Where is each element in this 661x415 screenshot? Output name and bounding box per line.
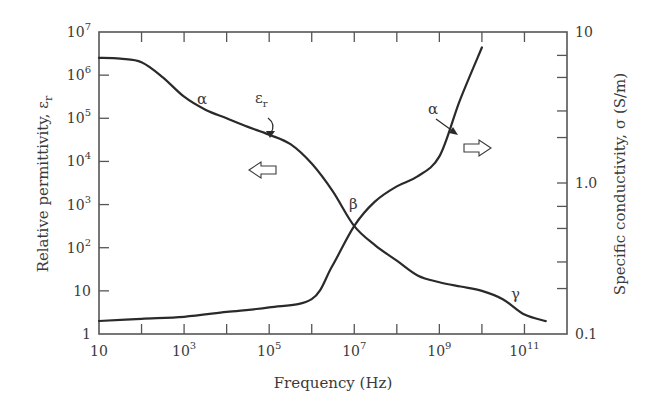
x-axis-title: Frequency (Hz)	[274, 374, 393, 392]
y-tick-label-left: 107	[67, 21, 91, 40]
alpha-pointer-arrow-icon	[436, 119, 458, 135]
y-tick-label-base: 10	[67, 197, 85, 213]
y-tick-label-left: 102	[67, 237, 91, 256]
x-tick-label-base: 10	[427, 343, 445, 359]
y-tick-label-exponent: 3	[85, 194, 91, 205]
x-tick-label: 105	[257, 340, 281, 359]
beta-label: β	[349, 195, 358, 213]
x-tick-label-base: 10	[509, 343, 527, 359]
epsilon-r-label: εr	[255, 89, 268, 109]
data-curves	[99, 48, 546, 322]
y-tick-label-left: 10	[73, 283, 91, 299]
y-tick-label-exponent: 5	[85, 107, 91, 118]
y-tick-label-exponent: 7	[85, 21, 91, 32]
y-tick-label-exponent: 2	[85, 237, 91, 248]
x-tick-label: 10	[90, 343, 108, 359]
y-tick-label-left: 1	[82, 326, 91, 342]
x-tick-label-base: 10	[342, 343, 360, 359]
x-tick-label: 109	[427, 340, 451, 359]
gamma-label: γ	[511, 285, 520, 303]
permittivity-conductivity-chart: 1010310510710910111101021031041051061070…	[0, 0, 661, 415]
y-tick-label-right: 1.0	[575, 175, 597, 191]
y-tick-label-base: 10	[73, 283, 91, 299]
x-tick-label-exponent: 7	[360, 340, 366, 351]
x-tick-label-base: 10	[172, 343, 190, 359]
y-tick-label-right: 0.1	[575, 326, 597, 342]
x-tick-label: 103	[172, 340, 196, 359]
y-tick-label-exponent: 4	[85, 150, 91, 161]
y-tick-label-base: 10	[67, 110, 85, 126]
x-tick-label-base: 10	[257, 343, 275, 359]
y-axis-title-right: Specific conductivity, σ (S/m)	[611, 73, 629, 295]
x-tick-label-exponent: 5	[275, 340, 281, 351]
plot-border	[99, 32, 567, 334]
y-axis-title-left-main: Relative permittivity, ε	[34, 101, 52, 273]
y-tick-label-left: 106	[67, 64, 91, 83]
y-tick-label-left: 103	[67, 194, 91, 213]
x-tick-label-base: 10	[90, 343, 108, 359]
y-tick-label-base: 10	[67, 240, 85, 256]
x-tick-label: 107	[342, 340, 366, 359]
y-tick-label-base: 10	[67, 67, 85, 83]
alpha-permittivity-label: α	[197, 90, 207, 108]
plot-frame	[99, 32, 567, 334]
right-axis-hollow-arrow-icon	[464, 140, 491, 156]
x-tick-label-exponent: 11	[527, 340, 540, 351]
y-tick-label-base: 1	[82, 326, 91, 342]
y-tick-label-base: 10	[67, 24, 85, 40]
left-axis-hollow-arrow-icon	[249, 162, 276, 178]
x-tick-label-exponent: 3	[190, 340, 196, 351]
y-tick-label-left: 105	[67, 107, 91, 126]
alpha-conductivity-label: α	[428, 100, 438, 118]
y-axis-title-left-sub: r	[42, 95, 55, 101]
x-tick-label: 1011	[509, 340, 540, 359]
conductivity-curve	[99, 48, 482, 322]
y-tick-label-exponent: 6	[85, 64, 91, 75]
x-tick-label-exponent: 9	[445, 340, 451, 351]
y-tick-label-base: 10	[67, 153, 85, 169]
permittivity-curve	[99, 58, 546, 321]
y-tick-label-right: 10	[575, 24, 593, 40]
axis-ticks	[99, 32, 567, 334]
epsilon-subscript: r	[263, 98, 268, 109]
y-axis-title-left: Relative permittivity, εr	[34, 95, 55, 272]
y-tick-label-left: 104	[67, 150, 91, 169]
